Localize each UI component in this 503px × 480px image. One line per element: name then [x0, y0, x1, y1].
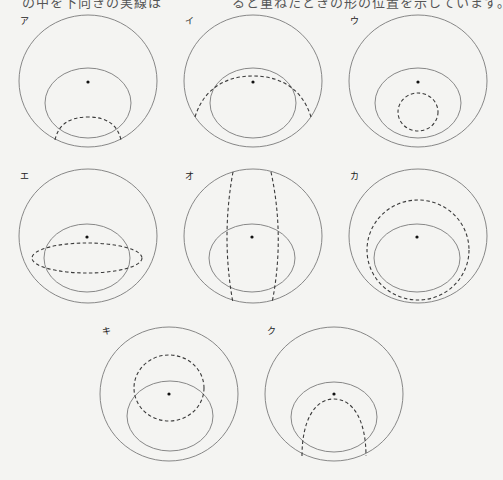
center-dot	[167, 392, 170, 395]
center-dot	[251, 80, 254, 83]
inner-ellipse	[375, 68, 461, 138]
center-dot	[332, 392, 335, 395]
dashed-ellipse	[32, 243, 142, 273]
panel-label: イ	[185, 16, 194, 26]
center-dot	[250, 235, 253, 238]
panel-o: オ	[184, 169, 322, 303]
inner-ellipse	[374, 224, 460, 292]
panel-label: ア	[20, 16, 29, 26]
panel-label: ウ	[350, 16, 359, 26]
dashed-circle	[398, 93, 438, 131]
panel-a: ア	[19, 15, 157, 147]
dashed-circle	[367, 200, 469, 300]
panel-i: イ	[184, 15, 322, 147]
panel-label: キ	[102, 326, 111, 336]
panel-label: オ	[185, 171, 194, 181]
center-dot	[86, 80, 89, 83]
panel-e: エ	[19, 169, 157, 303]
panel-ka: カ	[349, 169, 487, 303]
center-dot	[85, 235, 88, 238]
inner-ellipse	[127, 381, 213, 451]
dashed-line-left	[227, 172, 233, 303]
dashed-arc	[55, 117, 121, 140]
inner-ellipse	[209, 224, 295, 292]
diagram-canvas: ア イ ウ エ オ カ	[0, 0, 503, 480]
panel-u: ウ	[349, 15, 487, 147]
dashed-line-right	[271, 172, 278, 303]
center-dot	[416, 80, 419, 83]
panel-ki: キ	[100, 326, 238, 461]
inner-ellipse	[210, 68, 296, 138]
panel-label: カ	[350, 171, 359, 181]
inner-ellipse	[44, 224, 130, 292]
panel-label: ク	[267, 326, 276, 336]
panel-ku: ク	[265, 326, 403, 461]
center-dot	[415, 235, 418, 238]
inner-ellipse	[45, 68, 131, 138]
panel-label: エ	[20, 171, 29, 181]
